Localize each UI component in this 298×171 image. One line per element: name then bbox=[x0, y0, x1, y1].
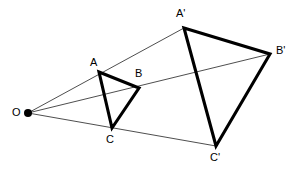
ray-O-C-Cprime bbox=[28, 113, 216, 146]
label-point-a-prime: A' bbox=[176, 8, 185, 19]
label-point-c-prime: C' bbox=[210, 152, 220, 163]
geometry-canvas bbox=[0, 0, 298, 171]
ray-O-B-Bprime bbox=[28, 54, 270, 113]
triangle-abc-edges bbox=[99, 72, 139, 128]
label-point-c: C bbox=[106, 134, 114, 145]
geometry-diagram: O A B C A' B' C' bbox=[0, 0, 298, 171]
center-point-dot bbox=[24, 109, 32, 117]
label-point-b-prime: B' bbox=[276, 45, 285, 56]
label-point-o: O bbox=[12, 107, 21, 118]
dilation-rays-group bbox=[28, 28, 270, 146]
source-triangle-abc bbox=[99, 72, 139, 128]
label-point-b: B bbox=[135, 68, 142, 79]
label-point-a: A bbox=[90, 57, 97, 68]
triangle-aprime-bprime-cprime-edges bbox=[184, 28, 270, 146]
image-triangle-aprime-bprime-cprime bbox=[184, 28, 270, 146]
